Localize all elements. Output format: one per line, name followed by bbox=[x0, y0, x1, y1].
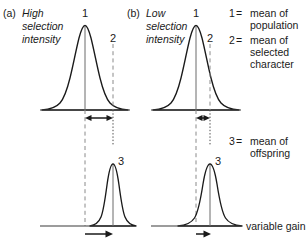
legend-line2-entry-1: population bbox=[250, 19, 299, 31]
legend-equals-1: = bbox=[236, 7, 242, 19]
legend-equals-3: = bbox=[236, 135, 242, 147]
legend-entry-3: 3 = mean of offspring bbox=[229, 135, 290, 159]
panel-b-marker-3: 3 bbox=[215, 155, 221, 167]
legend-equals-2: = bbox=[236, 34, 242, 46]
legend-entry-1: 1 = mean of population bbox=[229, 7, 299, 31]
panel-a-marker-3: 3 bbox=[118, 155, 124, 167]
panel-b-caption-line1: Low bbox=[146, 7, 167, 19]
panel-b-selection-differential-arrow bbox=[196, 115, 210, 121]
panel-a-caption-line1: High bbox=[22, 7, 44, 19]
panel-b-caption-line3: intensity bbox=[146, 33, 185, 45]
panel-b-caption-line2: selection bbox=[146, 20, 188, 32]
panel-b-marker-2: 2 bbox=[207, 32, 213, 44]
panel-a: (a) High selection intensity 1 2 bbox=[3, 7, 136, 237]
legend-symbol-3: 3 bbox=[229, 135, 235, 147]
panel-b-marker-1: 1 bbox=[193, 7, 199, 19]
legend-line1-entry-1: mean of bbox=[250, 7, 288, 19]
legend-line1-entry-3: mean of bbox=[250, 135, 288, 147]
selection-response-figure: (a) High selection intensity 1 2 bbox=[0, 0, 307, 244]
panel-a-marker-1: 1 bbox=[82, 7, 88, 19]
panel-a-selection-differential-arrow bbox=[85, 115, 113, 121]
panel-a-caption-line3: intensity bbox=[22, 33, 61, 45]
legend-symbol-1: 1 bbox=[229, 7, 235, 19]
legend-line2-entry-3: offspring bbox=[250, 147, 290, 159]
legend-symbol-2: 2 bbox=[229, 34, 235, 46]
panel-a-marker-2: 2 bbox=[110, 32, 116, 44]
x-axis-label: variable gain bbox=[246, 220, 306, 232]
panel-b-letter: (b) bbox=[127, 7, 140, 19]
panel-a-realized-gain-arrow bbox=[85, 231, 113, 238]
panel-b-realized-gain-arrow bbox=[196, 231, 211, 238]
figure-canvas: (a) High selection intensity 1 2 bbox=[0, 0, 307, 244]
legend-line3-entry-2: character bbox=[250, 58, 294, 70]
panel-a-caption-line2: selection bbox=[22, 20, 64, 32]
panel-b: (b) Low selection intensity 1 2 bbox=[127, 7, 242, 237]
legend-line1-entry-2: mean of bbox=[250, 34, 288, 46]
figure-legend: 1 = mean of population 2 = mean of selec… bbox=[229, 7, 299, 159]
panel-a-letter: (a) bbox=[3, 7, 16, 19]
legend-line2-entry-2: selected bbox=[250, 46, 289, 58]
legend-entry-2: 2 = mean of selected character bbox=[229, 34, 294, 70]
